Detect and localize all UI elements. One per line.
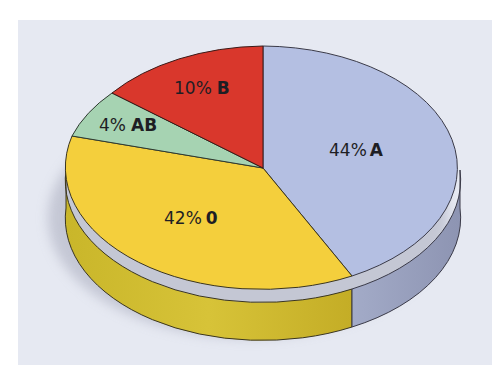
label-a: 44%A [329, 140, 384, 160]
label-0: 42%0 [164, 208, 218, 228]
pie-chart-3d: 44%A 42%0 4%AB 10%B [0, 0, 504, 377]
label-b: 10%B [174, 78, 230, 98]
